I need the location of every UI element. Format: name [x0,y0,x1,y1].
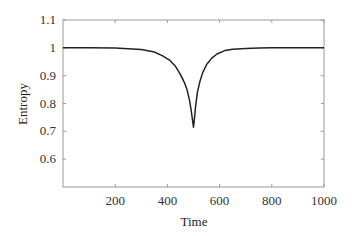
x-tick-label: 600 [210,193,230,208]
x-axis-label: Time [181,214,208,229]
plot-frame [63,20,324,187]
x-tick-label: 400 [158,193,178,208]
y-tick-label: 0.7 [40,123,57,138]
y-tick-label: 0.6 [40,151,57,166]
x-tick-label: 800 [262,193,282,208]
entropy-chart: 0.60.70.80.911.1 2004006008001000 Time E… [0,0,352,236]
x-tick-label: 200 [105,193,125,208]
y-tick-label: 0.8 [40,96,56,111]
entropy-line [63,48,324,127]
y-tick-label: 0.9 [40,68,56,83]
y-axis-label: Entropy [15,83,30,125]
y-tick-label: 1.1 [40,12,56,27]
y-tick-label: 1 [50,40,57,55]
y-axis-ticks: 0.60.70.80.911.1 [40,12,324,166]
x-tick-label: 1000 [311,193,337,208]
